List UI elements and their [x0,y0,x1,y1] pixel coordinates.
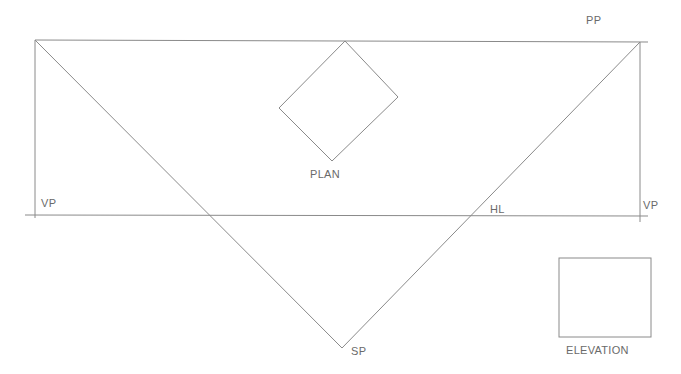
picture-plane-line [35,40,648,42]
left-sight-line [35,40,342,348]
sp-label: SP [351,346,366,357]
perspective-drawing [0,0,681,374]
pp-label: PP [586,15,601,26]
plan-label: PLAN [310,169,340,180]
vp-left-label: VP [41,198,56,209]
elevation-rectangle [559,258,651,337]
vp-right-label: VP [643,200,658,211]
right-sight-line [342,42,640,348]
elevation-label: ELEVATION [566,345,629,356]
horizon-line [25,215,648,216]
hl-label: HL [490,204,505,215]
plan-square [279,41,398,161]
